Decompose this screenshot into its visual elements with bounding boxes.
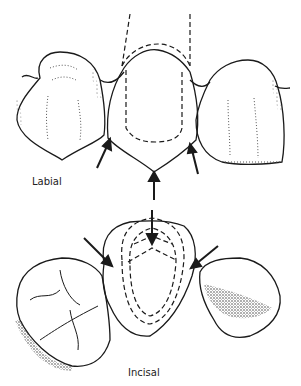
incisal-view-label: Incisal: [128, 367, 160, 378]
lateral-incisor-labial: [196, 60, 284, 164]
diagram-canvas: [0, 0, 301, 386]
central-incisor-labial: [108, 50, 198, 172]
gingival-line: [22, 72, 290, 89]
left-tooth-incisal: [17, 258, 110, 366]
labial-view-label: Labial: [32, 176, 62, 187]
left-incisor-labial: [17, 52, 105, 160]
